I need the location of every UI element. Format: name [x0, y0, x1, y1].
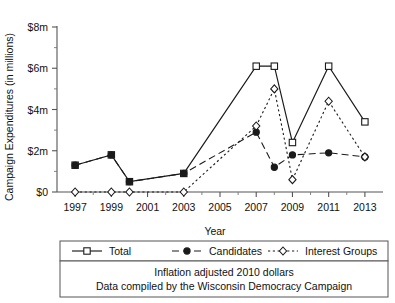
x-tick-label: 2013 [353, 201, 377, 213]
data-point [326, 150, 332, 156]
data-point [325, 97, 332, 105]
y-tick-label: $8m [28, 21, 49, 33]
legend-marker [84, 248, 90, 254]
x-tick-label: 1999 [100, 201, 124, 213]
data-point [271, 85, 278, 93]
data-point [361, 153, 368, 161]
data-point [325, 63, 331, 69]
data-point [126, 188, 133, 196]
x-tick-label: 2001 [136, 201, 160, 213]
data-point [289, 139, 295, 145]
legend-label: Interest Groups [305, 245, 377, 257]
caption: Inflation adjusted 2010 dollars Data com… [60, 261, 388, 297]
y-tick-label: $0 [36, 186, 48, 198]
caption-line-1: Inflation adjusted 2010 dollars [154, 266, 294, 278]
data-point [72, 188, 79, 196]
legend: TotalCandidatesInterest Groups [60, 241, 388, 261]
y-tick-label: $6m [28, 62, 49, 74]
data-point [362, 119, 368, 125]
legend-label: Candidates [209, 245, 262, 257]
campaign-expenditures-line-chart: $0$2m$4m$6m$8m 1997199920012003200520072… [0, 0, 395, 303]
data-point [72, 162, 78, 168]
series-candidates [72, 129, 368, 185]
data-point [126, 179, 132, 185]
y-axis: $0$2m$4m$6m$8m [28, 21, 57, 198]
x-tick-label: 2003 [172, 201, 196, 213]
legend-label: Total [109, 245, 131, 257]
x-tick-label: 2005 [208, 201, 232, 213]
data-point [271, 63, 277, 69]
data-point [108, 152, 114, 158]
data-point [289, 176, 296, 184]
y-tick-label: $4m [28, 104, 49, 116]
data-point [181, 170, 187, 176]
legend-marker [184, 248, 190, 254]
y-tick-label: $2m [28, 145, 49, 157]
x-axis: 199719992001200320052007200920112013 [57, 192, 383, 213]
data-point [108, 188, 115, 196]
series-interest-groups [72, 85, 369, 196]
y-axis-title: Campaign Expenditures (in millions) [3, 33, 15, 201]
series-layer [72, 63, 369, 196]
series-line [75, 132, 365, 182]
x-tick-label: 2009 [281, 201, 305, 213]
series-line [75, 66, 365, 182]
x-tick-label: 1997 [63, 201, 87, 213]
x-tick-label: 2011 [317, 201, 340, 213]
caption-line-2: Data compiled by the Wisconsin Democracy… [96, 280, 352, 292]
series-line [75, 89, 365, 192]
series-total [72, 63, 368, 185]
x-tick-label: 2007 [245, 201, 269, 213]
chart-container: $0$2m$4m$6m$8m 1997199920012003200520072… [0, 0, 395, 303]
data-point [289, 152, 295, 158]
data-point [271, 164, 277, 170]
data-point [253, 63, 259, 69]
x-axis-title: Year [204, 225, 226, 237]
